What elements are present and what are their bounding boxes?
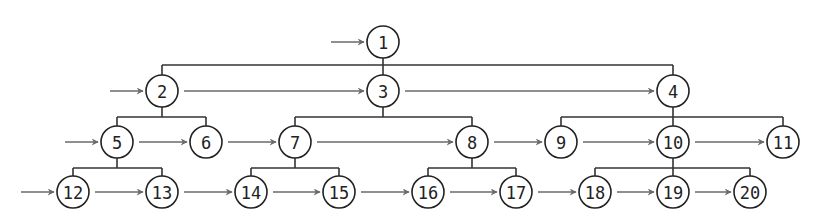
tree-node-18: 18 xyxy=(579,176,611,208)
tree-node-15: 15 xyxy=(323,176,355,208)
node-label: 4 xyxy=(668,82,678,102)
edge-group-10 xyxy=(595,158,750,176)
node-label: 15 xyxy=(329,183,349,203)
tree-node-20: 20 xyxy=(734,176,766,208)
tree-node-1: 1 xyxy=(367,26,399,58)
tree-node-14: 14 xyxy=(235,176,267,208)
node-label: 20 xyxy=(740,183,760,203)
node-label: 1 xyxy=(378,33,388,53)
tree-node-11: 11 xyxy=(767,126,799,158)
tree-node-16: 16 xyxy=(412,176,444,208)
tree-node-7: 7 xyxy=(279,126,311,158)
node-label: 13 xyxy=(152,183,172,203)
edge-group-4 xyxy=(561,107,783,126)
node-label: 17 xyxy=(506,183,526,203)
node-label: 8 xyxy=(467,133,477,153)
node-label: 14 xyxy=(241,183,261,203)
tree-node-13: 13 xyxy=(146,176,178,208)
tree-node-17: 17 xyxy=(500,176,532,208)
node-label: 3 xyxy=(378,82,388,102)
tree-node-12: 12 xyxy=(57,176,89,208)
node-label: 12 xyxy=(63,183,83,203)
tree-node-19: 19 xyxy=(657,176,689,208)
node-label: 7 xyxy=(290,133,300,153)
tree-node-5: 5 xyxy=(101,126,133,158)
tree-node-6: 6 xyxy=(190,126,222,158)
tree-node-4: 4 xyxy=(657,75,689,107)
tree-node-9: 9 xyxy=(545,126,577,158)
node-label: 10 xyxy=(663,133,683,153)
tree-diagram: 1234567891011121314151617181920 xyxy=(0,0,816,223)
tree-node-8: 8 xyxy=(456,126,488,158)
node-label: 2 xyxy=(157,82,167,102)
edge-group-1 xyxy=(162,58,673,75)
node-label: 6 xyxy=(201,133,211,153)
node-label: 9 xyxy=(556,133,566,153)
edge-group-8 xyxy=(428,158,516,176)
node-label: 16 xyxy=(418,183,438,203)
node-label: 18 xyxy=(585,183,605,203)
tree-node-10: 10 xyxy=(657,126,689,158)
edge-group-2 xyxy=(117,107,206,126)
tree-node-2: 2 xyxy=(146,75,178,107)
node-label: 11 xyxy=(773,133,793,153)
edge-group-7 xyxy=(251,158,339,176)
tree-node-3: 3 xyxy=(367,75,399,107)
node-label: 5 xyxy=(112,133,122,153)
edge-group-3 xyxy=(295,107,472,126)
edge-group-5 xyxy=(73,158,162,176)
node-label: 19 xyxy=(663,183,683,203)
